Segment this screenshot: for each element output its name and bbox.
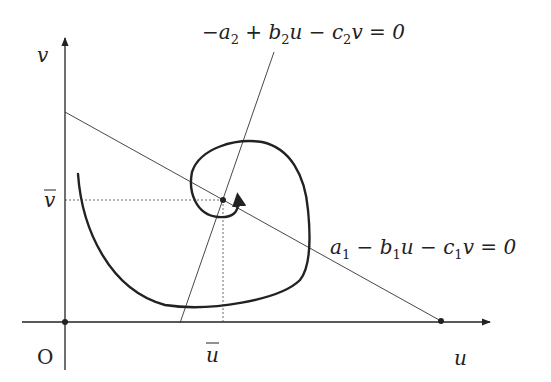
u-bar-label: u [206, 343, 219, 367]
phase-plane-diagram: v u O v u −a2 + b2u − c2v = 0 a1 − b1u −… [0, 0, 551, 382]
nc2-part-4: u − c [290, 20, 344, 44]
nc2-part-6: v = 0 [351, 20, 405, 44]
origin-label: O [37, 345, 53, 369]
equilibrium-point [220, 197, 226, 203]
nullcline-2-equation: −a2 + b2u − c2v = 0 [202, 20, 405, 47]
nc1-part-2: − b [350, 235, 392, 259]
nc1-sub-b: 1 [393, 247, 401, 262]
nc1-sub-a: 1 [342, 247, 350, 262]
nc2-sub-c: 2 [343, 32, 351, 47]
nc1-part-4: u − c [401, 235, 455, 259]
nullcline-1-equation: a1 − b1u − c1v = 0 [330, 235, 516, 262]
nc1-sub-c: 1 [454, 247, 462, 262]
nc2-part-2: + b [239, 20, 281, 44]
nc2-sub-b: 2 [281, 32, 289, 47]
x-axis-label: u [454, 346, 467, 370]
nc1-part-0: a [330, 235, 342, 259]
origin-point [62, 319, 68, 325]
nc2-sub-a: 2 [231, 32, 239, 47]
nullcline-2-line [180, 52, 274, 323]
u-bar-text: u [206, 343, 219, 367]
nullcline-1-line [65, 112, 441, 321]
u-intercept-point [438, 318, 444, 324]
y-axis-label: v [37, 43, 49, 67]
v-bar-text: v [44, 188, 56, 212]
nc1-part-6: v = 0 [463, 235, 517, 259]
nc2-part-0: −a [202, 20, 231, 44]
v-bar-label: v [44, 188, 56, 212]
